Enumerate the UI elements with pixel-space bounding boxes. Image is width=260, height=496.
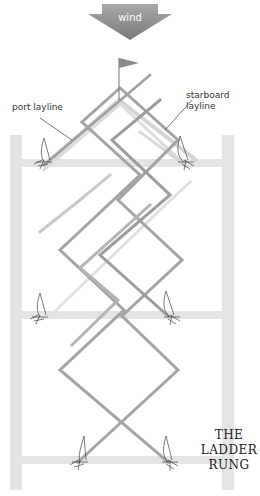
sailboat-icon [30,293,48,324]
ladder-rung-diagram: wind port layline starboard layline THE … [0,0,260,496]
wind-label: wind [108,12,152,23]
boats [30,136,194,471]
port-layline-leader [40,118,72,140]
left-rail [10,135,22,490]
port-layline-label: port layline [12,102,63,113]
course-lines [40,75,196,462]
starboard-layline-label-line1: starboard [186,90,229,101]
title-line-1: THE [198,428,260,443]
diagram-title: THE LADDER RUNG [198,428,260,473]
starboard-layline-label-line2: layline [186,101,229,112]
sailboat-icon [162,436,178,471]
sailboat-icon [70,436,88,470]
rung-bottom [22,456,222,464]
title-line-3: RUNG [198,458,260,473]
title-line-2: LADDER [198,443,260,458]
sailboat-icon [164,291,180,325]
diagram-canvas [0,0,260,496]
starboard-layline-label: starboard layline [186,90,229,112]
